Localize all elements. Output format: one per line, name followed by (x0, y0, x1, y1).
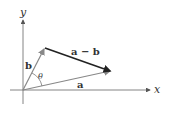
x-axis-label: x (154, 83, 161, 96)
y-axis-label: y (19, 6, 27, 19)
angle-theta-label: θ (38, 72, 43, 81)
vector-diagram: y x b a a − b θ (0, 0, 175, 120)
vector-b-label: b (25, 60, 32, 71)
vector-a (23, 71, 110, 90)
vector-a-minus-b-label: a − b (71, 46, 100, 57)
vector-a-label: a (77, 79, 84, 90)
